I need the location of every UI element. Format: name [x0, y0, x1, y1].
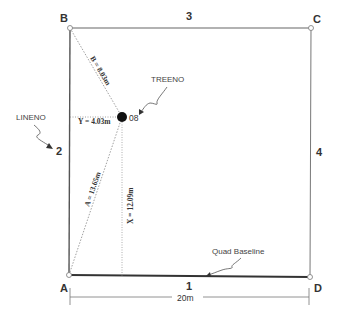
measurement-x-label: X = 12.09m [126, 187, 135, 224]
lineno-callout-arrow [34, 125, 48, 145]
side-label-bottom: 1 [186, 280, 192, 292]
baseline-callout-label: Quad Baseline [212, 247, 265, 256]
corner-c-marker [309, 26, 314, 31]
measurement-b-label: B = 8.03m [88, 54, 113, 87]
lineno-callout-label: LINENO [16, 113, 46, 122]
side-label-top: 3 [186, 10, 192, 22]
quad-baseline-line [69, 275, 310, 277]
lineno-arrowhead-icon [46, 143, 53, 149]
tree-id-label: 08 [129, 113, 139, 123]
side-label-right: 4 [316, 146, 323, 158]
measurement-y-label: Y = 4.03m [78, 117, 111, 126]
distance-a-line [69, 117, 122, 275]
corner-label-d: D [314, 282, 322, 294]
measurement-a-label: A = 13.65m [82, 170, 103, 208]
corner-d-marker [308, 275, 313, 280]
tree-marker [117, 112, 127, 122]
corner-a-marker [67, 273, 72, 278]
baseline-arrowhead-icon [205, 272, 211, 277]
side-right-line [310, 28, 311, 277]
treeno-callout-arrow [141, 87, 167, 112]
corner-label-c: C [313, 13, 321, 25]
side-label-left: 2 [56, 145, 62, 157]
quadrat-diagram: B C A D 3 2 4 1 08 B = 8.03m Y = 4.03m A… [0, 0, 339, 317]
treeno-arrowhead-icon [139, 109, 144, 115]
corner-b-marker [68, 26, 73, 31]
corner-label-a: A [60, 282, 68, 294]
baseline-callout-arrow [208, 258, 241, 275]
treeno-callout-label: TREENO [151, 75, 184, 84]
side-left-line [69, 28, 70, 275]
distance-b-line [70, 28, 122, 117]
dimension-width-label: 20m [177, 293, 194, 303]
corner-label-b: B [60, 12, 68, 24]
